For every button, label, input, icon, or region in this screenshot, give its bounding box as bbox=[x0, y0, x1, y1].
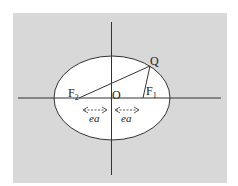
label-ea-right: ea bbox=[121, 112, 132, 124]
label-o: O bbox=[112, 88, 121, 102]
label-q: Q bbox=[150, 54, 159, 68]
label-ea-left: ea bbox=[89, 112, 100, 124]
ellipse-diagram: F2 O F1 Q ea ea bbox=[0, 0, 238, 186]
